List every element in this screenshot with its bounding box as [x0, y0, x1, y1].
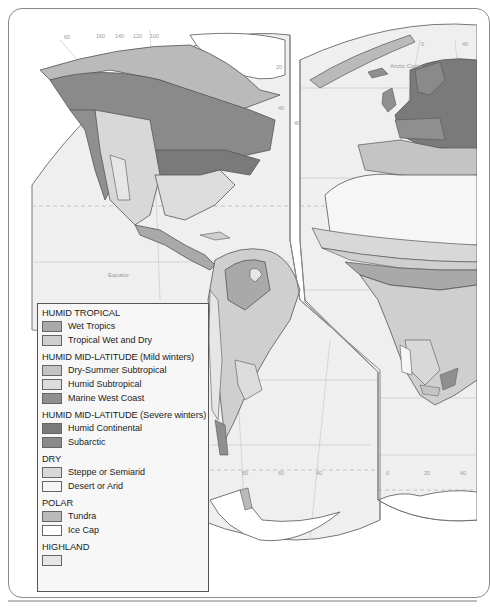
legend-label: Marine West Coast [68, 393, 144, 404]
legend-label: Subarctic [68, 437, 106, 448]
legend-heading: HUMID MID-LATITUDE (Severe winters) [42, 410, 208, 421]
legend-swatch [42, 379, 62, 390]
legend-item-dry-summer-subtropical: Dry-Summer Subtropical [42, 363, 208, 377]
legend-label: Humid Continental [68, 423, 142, 434]
legend-label: Ice Cap [68, 525, 99, 536]
legend-label: Desert or Arid [68, 481, 123, 492]
legend-label: Humid Subtropical [68, 379, 142, 390]
lon-label: 160 [96, 33, 105, 39]
legend-heading: HIGHLAND [42, 542, 208, 553]
lon-label: 120 [133, 33, 142, 39]
legend-item-marine-west-coast: Marine West Coast [42, 391, 208, 405]
legend-label: Tropical Wet and Dry [68, 335, 152, 346]
climate-legend: HUMID TROPICAL Wet Tropics Tropical Wet … [37, 303, 209, 592]
legend-heading: POLAR [42, 498, 208, 509]
legend-swatch [42, 335, 62, 346]
legend-swatch [42, 365, 62, 376]
legend-swatch [42, 393, 62, 404]
lon-label: 100 [150, 33, 159, 39]
legend-group-highland: HIGHLAND [42, 542, 208, 567]
legend-group-humid-tropical: HUMID TROPICAL Wet Tropics Tropical Wet … [42, 308, 208, 347]
legend-swatch [42, 467, 62, 478]
legend-item-wet-tropics: Wet Tropics [42, 319, 208, 333]
lon-label: 0 [386, 470, 389, 476]
legend-heading: HUMID MID-LATITUDE (Mild winters) [42, 352, 208, 363]
lat-label: 40 [294, 120, 300, 126]
legend-item-desert: Desert or Arid [42, 479, 208, 493]
legend-item-humid-subtropical: Humid Subtropical [42, 377, 208, 391]
legend-swatch [42, 321, 62, 332]
legend-heading: HUMID TROPICAL [42, 308, 208, 319]
lon-label: 60 [64, 34, 70, 40]
legend-heading: DRY [42, 454, 208, 465]
lon-label: 80 [242, 470, 248, 476]
legend-swatch [42, 437, 62, 448]
equator-label: Equator [108, 272, 129, 278]
legend-item-subarctic: Subarctic [42, 435, 208, 449]
lon-label: 40 [462, 41, 468, 47]
legend-group-polar: POLAR Tundra Ice Cap [42, 498, 208, 537]
legend-item-tundra: Tundra [42, 509, 208, 523]
lon-label: 40 [316, 470, 322, 476]
legend-label: Dry-Summer Subtropical [68, 365, 167, 376]
lon-label: 40 [460, 470, 466, 476]
legend-swatch [42, 481, 62, 492]
legend-label: Tundra [68, 511, 96, 522]
legend-swatch [42, 423, 62, 434]
legend-swatch [42, 511, 62, 522]
lon-label: 60 [278, 470, 284, 476]
legend-item-ice-cap: Ice Cap [42, 523, 208, 537]
lon-label: 0 [421, 41, 424, 47]
legend-item-steppe: Steppe or Semiarid [42, 465, 208, 479]
legend-label: Steppe or Semiarid [68, 467, 145, 478]
arctic-circle-label: Arctic Circle [390, 63, 422, 69]
legend-item-highland [42, 553, 208, 567]
lon-label: 20 [424, 470, 430, 476]
legend-label: Wet Tropics [68, 321, 115, 332]
legend-item-humid-continental: Humid Continental [42, 421, 208, 435]
legend-swatch [42, 525, 62, 536]
legend-group-dry: DRY Steppe or Semiarid Desert or Arid [42, 454, 208, 493]
lat-label: 20 [276, 64, 282, 70]
legend-group-severe-winters: HUMID MID-LATITUDE (Severe winters) Humi… [42, 410, 208, 449]
legend-swatch [42, 555, 62, 566]
legend-item-tropical-wet-dry: Tropical Wet and Dry [42, 333, 208, 347]
legend-group-mild-winters: HUMID MID-LATITUDE (Mild winters) Dry-Su… [42, 352, 208, 405]
lat-label: 40 [278, 105, 284, 111]
lon-label: 140 [115, 33, 124, 39]
